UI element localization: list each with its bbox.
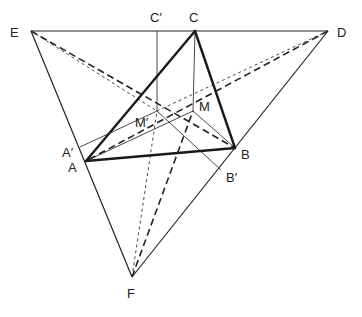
edge-EF [31, 31, 132, 277]
label-E: E [10, 25, 19, 40]
label-A: A [68, 160, 77, 175]
edge-AC [86, 31, 195, 161]
dashed-D-A [86, 31, 328, 161]
label-A-prime: A′ [62, 145, 74, 160]
dashed-F-Mprime [132, 111, 157, 277]
dashed-E-B [31, 31, 235, 148]
label-D: D [337, 25, 346, 40]
label-M: M [199, 99, 210, 114]
line-C-M [193, 31, 195, 111]
label-B: B [241, 147, 250, 162]
dashed-D-Mprime [157, 31, 328, 111]
label-F: F [127, 286, 135, 301]
label-B-prime: B′ [226, 170, 238, 185]
label-C: C [189, 10, 198, 25]
label-M-prime: M′ [135, 115, 149, 130]
point-labels: E D F C C′ A′ A B B′ M M′ [10, 10, 346, 301]
geometry-diagram: E D F C C′ A′ A B B′ M M′ [0, 0, 362, 317]
inner-triangle-ABC [86, 31, 235, 161]
label-C-prime: C′ [150, 10, 162, 25]
edge-AB [86, 148, 235, 161]
